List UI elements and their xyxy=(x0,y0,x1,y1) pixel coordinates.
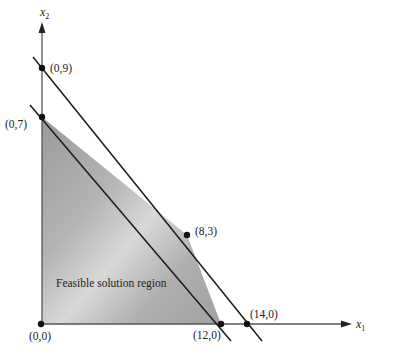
point-0-9 xyxy=(39,65,45,71)
label-14-0: (14,0) xyxy=(250,308,278,321)
label-0-9: (0,9) xyxy=(50,62,72,75)
point-0-7 xyxy=(39,114,45,120)
x2-axis-label: x2 xyxy=(39,5,49,21)
x1-axis-arrow-icon xyxy=(341,321,352,328)
x2-axis-arrow-icon xyxy=(39,22,46,33)
point-12-0 xyxy=(218,321,224,327)
point-origin xyxy=(38,321,44,327)
feasible-region xyxy=(42,117,221,324)
point-14-0 xyxy=(244,321,250,327)
label-origin: (0,0) xyxy=(29,330,51,343)
point-8-3 xyxy=(184,232,190,238)
label-0-7: (0,7) xyxy=(5,118,27,131)
label-12-0: (12,0) xyxy=(193,329,221,342)
feasible-region-diagram: (0,9) (0,7) (8,3) (0,0) (12,0) (14,0) Fe… xyxy=(0,0,395,358)
feasible-region-label: Feasible solution region xyxy=(56,277,167,290)
x1-axis-label: x1 xyxy=(355,317,365,333)
label-8-3: (8,3) xyxy=(195,225,217,238)
